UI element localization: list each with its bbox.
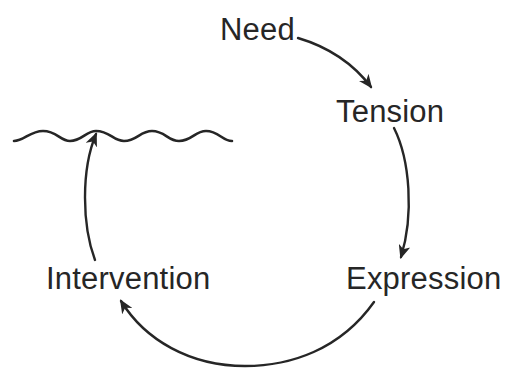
arrow-need-to-tension [298,38,371,87]
node-need: Need [220,14,295,45]
cycle-diagram [0,0,509,387]
wave-line [14,131,232,141]
arrow-expression-to-intervention [121,301,374,366]
node-intervention: Intervention [46,263,210,294]
arrow-tension-to-expression [394,128,409,257]
arrow-intervention-to-wave [85,134,96,260]
node-expression: Expression [346,263,501,294]
node-tension: Tension [336,96,444,127]
